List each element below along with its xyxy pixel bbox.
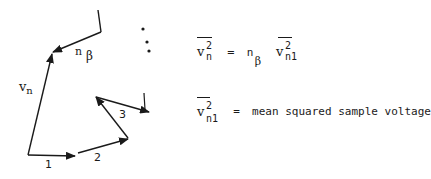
- eq1-lhs: v 2 n: [197, 44, 215, 59]
- ellipsis-dot: [147, 49, 150, 52]
- overline: [278, 37, 292, 38]
- eq1-equals: =: [227, 45, 234, 59]
- eq1-rhs: v 2 n1: [276, 44, 306, 59]
- eq2-definition-text: mean squared sample voltage: [252, 105, 431, 118]
- eq2-equals: =: [233, 105, 240, 118]
- nbeta-tick: [98, 10, 101, 32]
- resultant-vn-sub: n: [26, 85, 32, 96]
- eq2-lhs-sup: 2: [206, 100, 212, 111]
- equation-vn1-definition: v 2 n1 = mean squared sample voltage: [197, 104, 431, 119]
- eq2-lhs-sub: n1: [206, 113, 218, 124]
- overline: [197, 37, 212, 38]
- eq1-coef-sub: β: [255, 55, 261, 68]
- vector-1-label: 1: [45, 159, 52, 170]
- equation-vn-squared: v 2 n = n β v 2 n1: [197, 44, 306, 59]
- eq1-coef-base: n: [247, 46, 254, 59]
- eq1-lhs-sup: 2: [206, 40, 212, 51]
- eq1-rhs-sup: 2: [285, 40, 291, 51]
- vector-3-label: 3: [119, 109, 126, 120]
- eq1-lhs-base: v: [197, 44, 204, 59]
- eq2-lhs-base: v: [197, 104, 204, 119]
- eq1-coef: n β: [247, 45, 267, 59]
- nbeta-label: nβ: [75, 44, 93, 57]
- resultant-vn-label: vn: [19, 80, 33, 93]
- vector-4-tick: [144, 93, 145, 110]
- eq2-lhs: v 2 n1: [197, 104, 221, 119]
- resultant-vn-arrow: [28, 54, 52, 155]
- vector-2-label: 2: [94, 152, 101, 163]
- overline: [197, 97, 210, 98]
- eq1-rhs-base: v: [276, 44, 283, 59]
- eq1-lhs-sub: n: [206, 51, 212, 62]
- ellipsis-dot: [141, 27, 144, 30]
- vector-2-arrow: [78, 139, 128, 153]
- ellipsis-dot: [145, 40, 148, 43]
- nbeta-base: n: [75, 45, 82, 58]
- nbeta-sub: β: [86, 49, 93, 63]
- eq1-rhs-sub: n1: [285, 51, 297, 62]
- vector-1-arrow: [28, 155, 75, 156]
